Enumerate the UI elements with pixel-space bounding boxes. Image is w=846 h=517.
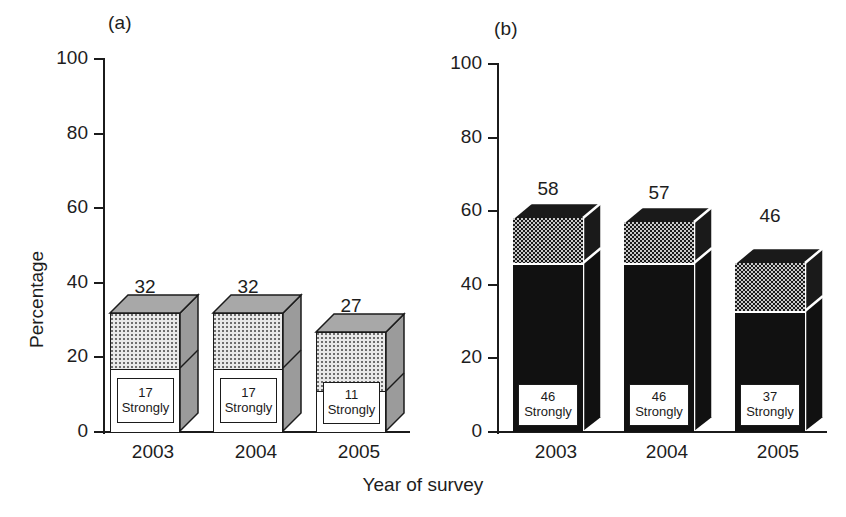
figure-canvas: (a) 0 20 40 60 80 100 Percentage [0, 0, 846, 517]
caption-sliver [8, 510, 158, 516]
panel-b-category-2005: 2005 [738, 441, 818, 463]
bar-b-2005-strongly-value: 37 [763, 390, 777, 405]
bar-b-2005-upper-segment [735, 263, 805, 311]
panel-a-3d-faces-2005 [0, 0, 430, 517]
bar-a-2005-total-label: 27 [316, 295, 386, 317]
x-axis-title: Year of survey [333, 474, 513, 496]
bar-b-2005-strongly-word: Strongly [746, 405, 794, 420]
bar-a-2005-strongly-word: Strongly [328, 403, 376, 418]
panel-b: (b) 0 20 40 60 80 100 [416, 0, 846, 517]
bar-b-2005-strongly-box: 37 Strongly [740, 384, 800, 426]
bar-a-2005-strongly-value: 11 [345, 388, 359, 403]
panel-a-category-2005: 2005 [319, 441, 399, 463]
bar-a-2005-strongly-box: 11 Strongly [323, 382, 380, 424]
bar-b-2005-total-label: 46 [735, 205, 805, 227]
panel-b-3d-faces-2005 [416, 0, 846, 517]
panel-a: (a) 0 20 40 60 80 100 Percentage [0, 0, 430, 517]
